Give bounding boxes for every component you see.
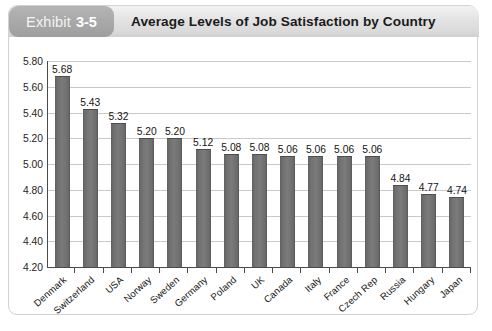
bar-value-label: 5.06 [362, 144, 382, 155]
bars-layer: 5.685.435.325.205.205.125.085.085.065.06… [48, 61, 471, 267]
y-axis-tick-label: 4.60 [23, 210, 43, 221]
bar-group[interactable]: 5.08 [245, 61, 273, 267]
y-axis-tick-label: 4.20 [23, 262, 43, 273]
bar-group[interactable]: 5.43 [76, 61, 104, 267]
bar-value-label: 5.06 [306, 144, 326, 155]
bar-value-label: 5.06 [334, 144, 354, 155]
bar[interactable] [449, 197, 464, 267]
bar[interactable] [421, 194, 436, 267]
y-axis-tick-label: 4.80 [23, 184, 43, 195]
bar[interactable] [111, 123, 126, 267]
y-axis-tick-label: 5.40 [23, 107, 43, 118]
bar-value-label: 5.20 [165, 126, 185, 137]
bar[interactable] [337, 156, 352, 267]
bar-value-label: 5.06 [278, 144, 298, 155]
bar[interactable] [252, 154, 267, 267]
bar-chart: 5.805.605.405.205.004.804.604.404.20 5.6… [9, 37, 479, 316]
bar-value-label: 5.20 [137, 126, 157, 137]
exhibit-badge: Exhibit 3-5 [9, 6, 114, 37]
bar[interactable] [55, 76, 70, 267]
bar-group[interactable]: 5.08 [217, 61, 245, 267]
x-axis-label-cell: Hungary [414, 273, 442, 316]
bar-group[interactable]: 4.77 [415, 61, 443, 267]
bar-value-label: 5.08 [249, 142, 269, 153]
bar-group[interactable]: 5.06 [274, 61, 302, 267]
y-axis-tick-labels: 5.805.605.405.205.004.804.604.404.20 [9, 37, 43, 316]
bar-group[interactable]: 4.84 [386, 61, 414, 267]
exhibit-label: Exhibit [26, 14, 71, 30]
bar-group[interactable]: 5.68 [48, 61, 76, 267]
bar-value-label: 5.08 [221, 142, 241, 153]
bar-value-label: 4.74 [447, 185, 467, 196]
bar-group[interactable]: 4.74 [443, 61, 471, 267]
bar-group[interactable]: 5.20 [161, 61, 189, 267]
x-axis-tick-label: UK [249, 274, 266, 291]
bar[interactable] [139, 138, 154, 267]
bar-value-label: 4.84 [391, 173, 411, 184]
bar-value-label: 5.32 [108, 111, 128, 122]
x-axis-label-cell: Canada [273, 273, 301, 316]
plot-area: 5.685.435.325.205.205.125.085.085.065.06… [47, 61, 471, 268]
bar[interactable] [280, 156, 295, 267]
bar[interactable] [224, 154, 239, 267]
bar-value-label: 4.77 [419, 182, 439, 193]
bar[interactable] [196, 149, 211, 267]
x-axis-label-cell: Poland [217, 273, 245, 316]
x-axis-label-cell: Switzerland [75, 273, 103, 316]
bar[interactable] [83, 109, 98, 267]
bar-group[interactable]: 5.32 [104, 61, 132, 267]
x-axis-tick-label: USA [103, 274, 125, 296]
bar[interactable] [393, 185, 408, 267]
y-axis-tick-label: 5.20 [23, 133, 43, 144]
bar-value-label: 5.12 [193, 137, 213, 148]
exhibit-header: Exhibit 3-5 Average Levels of Job Satisf… [9, 6, 479, 37]
bar-value-label: 5.43 [80, 97, 100, 108]
bar[interactable] [365, 156, 380, 267]
exhibit-number: 3-5 [76, 14, 97, 30]
bar-group[interactable]: 5.06 [358, 61, 386, 267]
bar-group[interactable]: 5.20 [133, 61, 161, 267]
y-axis-tick-label: 4.40 [23, 236, 43, 247]
exhibit-title: Average Levels of Job Satisfaction by Co… [131, 6, 436, 37]
bar-value-label: 5.68 [52, 64, 72, 75]
x-axis-tick-label: Italy [302, 274, 323, 294]
bar-group[interactable]: 5.12 [189, 61, 217, 267]
bar[interactable] [308, 156, 323, 267]
y-axis-tick-label: 5.80 [23, 56, 43, 67]
bar[interactable] [167, 138, 182, 267]
x-axis-label-cell: Japan [443, 273, 471, 316]
exhibit-card: Exhibit 3-5 Average Levels of Job Satisf… [8, 5, 478, 315]
x-axis-tick-labels: DenmarkSwitzerlandUSANorwaySwedenGermany… [47, 273, 471, 316]
bar-group[interactable]: 5.06 [302, 61, 330, 267]
bar-group[interactable]: 5.06 [330, 61, 358, 267]
y-axis-tick-label: 5.00 [23, 159, 43, 170]
y-axis-tick-label: 5.60 [23, 81, 43, 92]
